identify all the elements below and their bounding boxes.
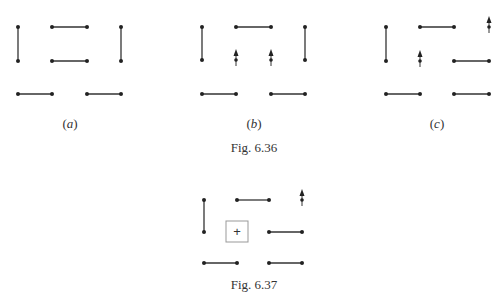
up-arrow-icon bbox=[487, 16, 492, 33]
dot bbox=[235, 261, 239, 265]
up-arrow-icon bbox=[234, 49, 239, 66]
fig-6-36-caption: Fig. 6.36 bbox=[194, 140, 314, 156]
dot bbox=[234, 25, 238, 29]
dot bbox=[200, 25, 204, 29]
dot bbox=[119, 92, 123, 96]
dot bbox=[384, 92, 388, 96]
dot bbox=[202, 198, 206, 202]
dot bbox=[418, 25, 422, 29]
dot bbox=[16, 92, 20, 96]
dot bbox=[267, 198, 271, 202]
arrow-head bbox=[418, 50, 423, 57]
dot bbox=[384, 25, 388, 29]
dot bbox=[50, 92, 54, 96]
dot bbox=[50, 59, 54, 63]
plus-icon: + bbox=[233, 224, 241, 239]
dot bbox=[269, 58, 273, 62]
dot bbox=[119, 59, 123, 63]
dot bbox=[418, 92, 422, 96]
up-arrow-icon bbox=[300, 189, 305, 206]
dot bbox=[202, 230, 206, 234]
arrow-head bbox=[234, 49, 239, 56]
dot bbox=[85, 25, 89, 29]
arrow-head bbox=[269, 49, 274, 56]
dot bbox=[300, 261, 304, 265]
dot bbox=[303, 25, 307, 29]
dot bbox=[202, 261, 206, 265]
dot bbox=[487, 25, 491, 29]
dot bbox=[235, 198, 239, 202]
dot bbox=[85, 59, 89, 63]
fig-6-37-drawing: + bbox=[202, 189, 305, 265]
dot bbox=[267, 261, 271, 265]
panel-b-label: (b) bbox=[224, 116, 284, 132]
dot bbox=[200, 92, 204, 96]
dot bbox=[452, 25, 456, 29]
dot bbox=[269, 92, 273, 96]
dot bbox=[234, 58, 238, 62]
dot bbox=[300, 230, 304, 234]
dot bbox=[200, 58, 204, 62]
dot bbox=[418, 59, 422, 63]
dot bbox=[85, 92, 89, 96]
up-arrow-icon bbox=[269, 49, 274, 66]
dot bbox=[452, 59, 456, 63]
dot bbox=[16, 59, 20, 63]
panel-a-label: (a) bbox=[40, 116, 100, 132]
dot bbox=[452, 92, 456, 96]
dot bbox=[303, 58, 307, 62]
arrow-head bbox=[487, 16, 492, 23]
dot bbox=[119, 25, 123, 29]
dot bbox=[234, 92, 238, 96]
up-arrow-icon bbox=[418, 50, 423, 67]
fig-6-37-caption: Fig. 6.37 bbox=[194, 277, 314, 293]
dot bbox=[267, 230, 271, 234]
dot bbox=[303, 92, 307, 96]
panel-c-label: (c) bbox=[407, 116, 467, 132]
dot bbox=[50, 25, 54, 29]
dot bbox=[487, 59, 491, 63]
fig-6-36-drawing bbox=[16, 16, 492, 96]
arrow-head bbox=[300, 189, 305, 196]
dot bbox=[300, 198, 304, 202]
dot bbox=[487, 92, 491, 96]
dot bbox=[384, 59, 388, 63]
dot bbox=[269, 25, 273, 29]
dot bbox=[16, 25, 20, 29]
